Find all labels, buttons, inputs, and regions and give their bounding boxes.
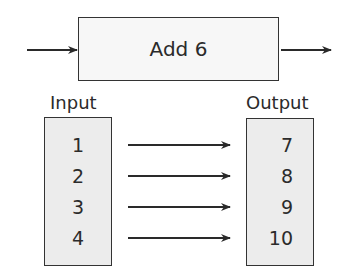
function-box: Add 6 [78,17,279,81]
output-value: 8 [249,167,293,186]
output-value: 9 [249,198,293,217]
input-value: 4 [44,229,112,248]
input-value: 3 [44,198,112,217]
output-label: Output [246,94,309,112]
output-value: 7 [249,136,293,155]
input-value: 2 [44,167,112,186]
input-label: Input [50,94,97,112]
output-value: 10 [249,229,293,248]
input-value: 1 [44,136,112,155]
function-label: Add 6 [150,37,208,61]
